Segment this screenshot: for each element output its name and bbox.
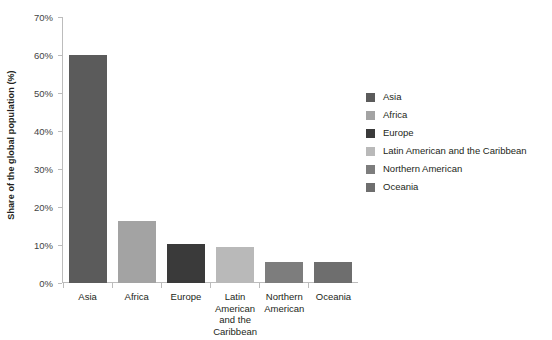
y-axis-tick: 0% — [2, 283, 62, 284]
bar-slot — [161, 17, 210, 283]
legend-swatch-icon — [366, 165, 375, 174]
x-axis-tick-mark — [210, 283, 211, 288]
y-axis-tick: 40% — [2, 131, 62, 132]
x-axis-tick-mark — [308, 283, 309, 288]
y-axis-tick-mark — [58, 93, 62, 94]
bar-slot — [112, 17, 161, 283]
legend-item[interactable]: Oceania — [366, 178, 527, 196]
bar-chart: Share of the global population (%) 70%60… — [0, 0, 552, 340]
x-axis-slot: Asia — [63, 283, 112, 337]
legend-item-label: Northern American — [375, 164, 462, 174]
y-axis-tick-label: 50% — [34, 88, 58, 98]
bar-latin-american-and-the-caribbean[interactable] — [216, 247, 254, 283]
legend-swatch-icon — [366, 93, 375, 102]
legend-item[interactable]: Northern American — [366, 160, 527, 178]
x-axis-slot: Latin American and the Caribbean — [211, 283, 260, 337]
legend-item-label: Africa — [375, 110, 407, 120]
legend-swatch-icon — [366, 183, 375, 192]
x-axis-slot: Europe — [161, 283, 210, 337]
y-axis-tick: 20% — [2, 207, 62, 208]
bar-series — [63, 17, 358, 283]
y-axis-tick-label: 60% — [34, 50, 58, 60]
bar-slot — [211, 17, 260, 283]
legend-swatch-icon — [366, 129, 375, 138]
x-axis-slot: Northern American — [260, 283, 309, 337]
y-axis-tick-label: 40% — [34, 126, 58, 136]
x-axis-tick-label: Africa — [112, 283, 161, 303]
legend-item[interactable]: Asia — [366, 88, 527, 106]
legend-item-label: Europe — [375, 128, 414, 138]
legend-item-label: Asia — [375, 92, 401, 102]
legend-item[interactable]: Latin American and the Caribbean — [366, 142, 527, 160]
y-axis-tick: 30% — [2, 169, 62, 170]
bar-slot — [309, 17, 358, 283]
y-axis-tick: 60% — [2, 55, 62, 56]
bar-europe[interactable] — [167, 244, 205, 283]
x-axis-tick-label: Latin American and the Caribbean — [211, 283, 260, 337]
y-axis-tick: 50% — [2, 93, 62, 94]
plot-area: 70%60%50%40%30%20%10%0% — [62, 17, 358, 283]
x-axis-tick-mark — [112, 283, 113, 288]
x-axis-tick-mark — [161, 283, 162, 288]
bar-slot — [63, 17, 112, 283]
x-axis-labels: AsiaAfricaEuropeLatin American and the C… — [63, 283, 358, 337]
y-axis-tick-mark — [58, 245, 62, 246]
bar-africa[interactable] — [118, 221, 156, 283]
y-axis-tick-label: 70% — [34, 12, 58, 22]
y-axis-tick-label: 10% — [34, 240, 58, 250]
x-axis-tick-label: Asia — [63, 283, 112, 303]
legend-swatch-icon — [366, 111, 375, 120]
y-axis-tick-label: 0% — [39, 278, 58, 288]
x-axis-tick-label: Northern American — [260, 283, 309, 314]
y-axis-tick-mark — [58, 55, 62, 56]
y-axis-tick-label: 20% — [34, 202, 58, 212]
y-axis-tick-mark — [58, 131, 62, 132]
y-axis-tick-mark — [58, 207, 62, 208]
bar-northern-american[interactable] — [265, 262, 303, 283]
legend-item-label: Oceania — [375, 182, 418, 192]
x-axis-tick-mark — [259, 283, 260, 288]
y-axis-tick-mark — [58, 17, 62, 18]
x-axis-slot: Africa — [112, 283, 161, 337]
bar-oceania[interactable] — [314, 262, 352, 283]
y-axis-title: Share of the global population (%) — [2, 0, 20, 290]
y-axis-tick-mark — [58, 169, 62, 170]
bar-asia[interactable] — [69, 55, 107, 283]
x-axis-tick-mark — [63, 283, 64, 288]
x-axis-slot: Oceania — [309, 283, 358, 337]
y-axis-tick: 70% — [2, 17, 62, 18]
y-axis-tick-mark — [58, 283, 62, 284]
y-axis-tick: 10% — [2, 245, 62, 246]
x-axis-tick-label: Oceania — [309, 283, 358, 303]
x-axis-tick-label: Europe — [161, 283, 210, 303]
legend-item[interactable]: Europe — [366, 124, 527, 142]
chart-legend: AsiaAfricaEuropeLatin American and the C… — [366, 88, 527, 196]
legend-item[interactable]: Africa — [366, 106, 527, 124]
legend-swatch-icon — [366, 147, 375, 156]
y-axis-tick-label: 30% — [34, 164, 58, 174]
bar-slot — [260, 17, 309, 283]
legend-item-label: Latin American and the Caribbean — [375, 146, 527, 156]
